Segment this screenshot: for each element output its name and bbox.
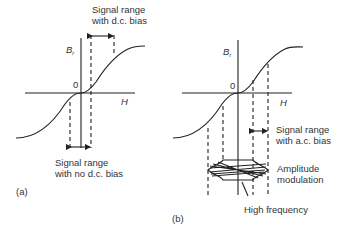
panel-a — [16, 35, 145, 148]
label-line: Signal range — [92, 4, 147, 15]
ac-bias-label: Signal range with a.c. bias — [276, 124, 331, 146]
h-label-b: H — [280, 97, 287, 108]
label-line: Signal range — [55, 157, 123, 168]
origin-label-b: 0 — [230, 80, 235, 91]
axis-sub: r — [229, 52, 231, 58]
br-label-a: Br — [66, 44, 74, 59]
panel-a-tag: (a) — [16, 186, 28, 197]
label-line: Amplitude — [277, 163, 323, 174]
axis-sub: r — [72, 50, 74, 56]
dc-bias-label: Signal range with d.c. bias — [92, 4, 147, 26]
label-line: with d.c. bias — [92, 15, 147, 26]
origin-label-a: 0 — [73, 79, 78, 90]
panel-b-tag: (b) — [172, 213, 184, 224]
h-label-a: H — [121, 96, 128, 107]
label-line: with no d.c. bias — [55, 168, 123, 179]
high-frequency-label: High frequency — [244, 204, 308, 215]
amplitude-modulation-label: Amplitude modulation — [277, 163, 323, 185]
no-dc-bias-label: Signal range with no d.c. bias — [55, 157, 123, 179]
diagram-canvas — [0, 0, 340, 230]
br-label-b: Br — [223, 46, 231, 61]
label-line: modulation — [277, 174, 323, 185]
label-line: with a.c. bias — [276, 135, 331, 146]
label-line: Signal range — [276, 124, 331, 135]
